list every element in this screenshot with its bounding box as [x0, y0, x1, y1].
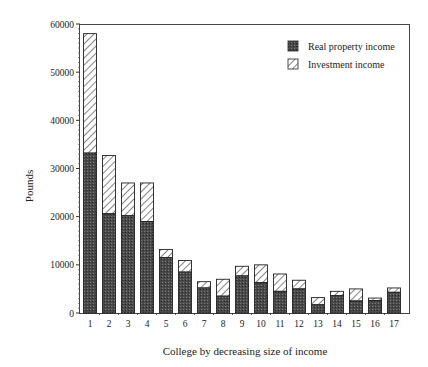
x-tick-label: 9: [240, 319, 245, 329]
bar-stack: [179, 260, 192, 313]
x-tick-label: 17: [389, 319, 399, 329]
bar-stack: [388, 288, 401, 313]
y-tick-label: 10000: [50, 260, 74, 270]
y-axis-label: Pounds: [23, 170, 35, 202]
bar-stack: [350, 289, 363, 313]
bar-stack: [103, 155, 116, 313]
bar-investment-income: [217, 279, 230, 296]
bar-real-property-income: [179, 272, 192, 313]
bar-investment-income: [198, 282, 211, 288]
bar-real-property-income: [122, 216, 135, 313]
x-tick-label: 12: [294, 319, 304, 329]
x-tick-label: 3: [126, 319, 131, 329]
bar-stack: [274, 274, 287, 313]
bar-investment-income: [84, 34, 97, 153]
bar-stack: [198, 282, 211, 313]
bar-real-property-income: [293, 289, 306, 313]
x-tick-label: 10: [256, 319, 266, 329]
bar-investment-income: [255, 265, 268, 283]
bar-investment-income: [179, 260, 192, 272]
x-axis: 1234567891011121314151617: [88, 313, 399, 329]
bar-stack: [217, 279, 230, 313]
bar-investment-income: [312, 298, 325, 305]
x-axis-label: College by decreasing size of income: [163, 345, 328, 357]
bar-stack: [236, 266, 249, 313]
x-tick-label: 2: [107, 319, 112, 329]
x-tick-label: 6: [183, 319, 188, 329]
legend-swatch-investment: [288, 59, 298, 69]
bar-investment-income: [103, 155, 116, 213]
bar-investment-income: [350, 289, 363, 301]
x-tick-label: 4: [145, 319, 150, 329]
bar-stack: [122, 183, 135, 313]
bar-stack: [312, 298, 325, 313]
y-tick-label: 50000: [50, 68, 74, 78]
y-tick-label: 30000: [50, 164, 74, 174]
bar-investment-income: [160, 249, 173, 257]
bar-stack: [369, 298, 382, 313]
bar-investment-income: [331, 291, 344, 295]
x-tick-label: 15: [351, 319, 361, 329]
x-tick-label: 1: [88, 319, 93, 329]
bar-real-property-income: [388, 292, 401, 313]
bar-investment-income: [274, 274, 287, 291]
x-tick-label: 5: [164, 319, 169, 329]
bar-stack: [141, 183, 154, 313]
bar-stack: [255, 265, 268, 313]
bar-real-property-income: [103, 214, 116, 313]
legend-label-investment: Investment income: [308, 59, 385, 70]
bar-real-property-income: [84, 153, 97, 313]
bar-real-property-income: [274, 291, 287, 313]
x-tick-label: 8: [221, 319, 226, 329]
bar-investment-income: [141, 183, 154, 222]
x-tick-label: 13: [313, 319, 323, 329]
bar-real-property-income: [217, 296, 230, 313]
bar-investment-income: [122, 183, 135, 216]
bar-real-property-income: [331, 296, 344, 313]
bars: [84, 34, 401, 313]
x-tick-label: 14: [332, 319, 342, 329]
bar-investment-income: [293, 280, 306, 289]
legend-swatch-real-property: [288, 41, 298, 51]
bar-real-property-income: [312, 305, 325, 313]
y-tick-label: 0: [69, 309, 74, 319]
y-axis: 0100002000030000400005000060000: [50, 20, 80, 319]
bar-stack: [293, 280, 306, 313]
bar-real-property-income: [141, 221, 154, 313]
bar-real-property-income: [350, 301, 363, 313]
bar-stack: [84, 34, 97, 313]
bar-stack: [160, 249, 173, 313]
x-tick-label: 7: [202, 319, 207, 329]
bar-real-property-income: [369, 300, 382, 313]
bar-real-property-income: [198, 288, 211, 313]
bar-real-property-income: [160, 258, 173, 313]
bar-real-property-income: [236, 276, 249, 313]
stacked-bar-chart: 0100002000030000400005000060000 12345678…: [0, 0, 428, 367]
bar-investment-income: [388, 288, 401, 292]
y-tick-label: 20000: [50, 212, 74, 222]
legend-label-real-property: Real property income: [308, 41, 395, 52]
y-tick-label: 40000: [50, 116, 74, 126]
bar-investment-income: [236, 266, 249, 276]
legend: Real property income Investment income: [288, 41, 395, 70]
x-tick-label: 11: [275, 319, 284, 329]
bar-real-property-income: [255, 283, 268, 313]
x-tick-label: 16: [370, 319, 380, 329]
y-tick-label: 60000: [50, 20, 74, 30]
bar-stack: [331, 291, 344, 313]
